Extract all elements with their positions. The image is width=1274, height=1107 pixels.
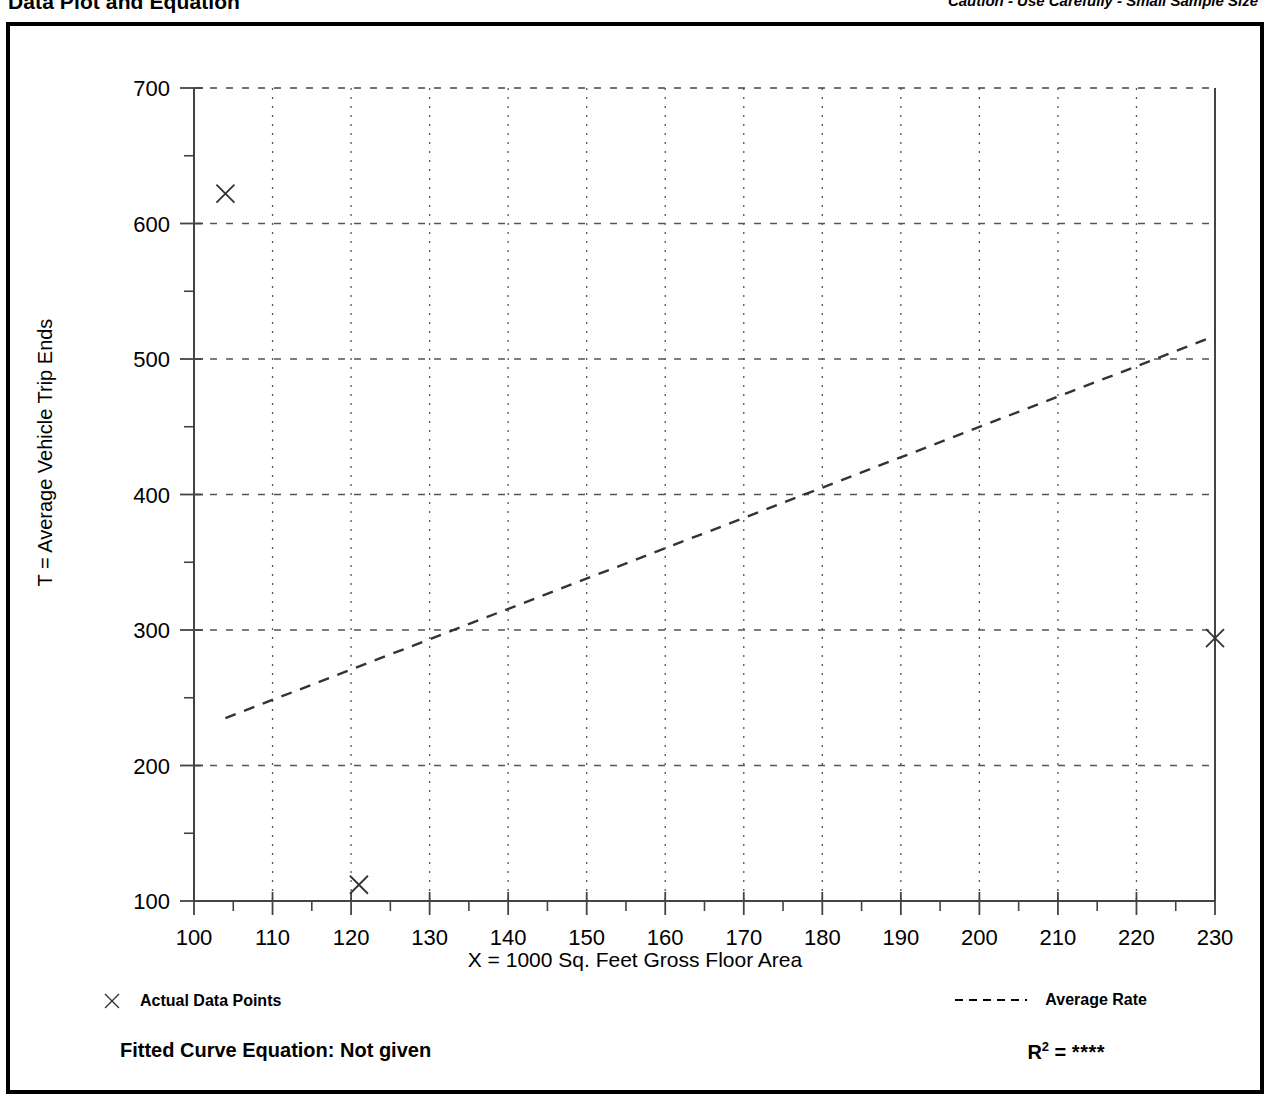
page-header: Data Plot and Equation Caution - Use Car… xyxy=(0,0,1274,18)
fitted-curve-equation: Fitted Curve Equation: Not given xyxy=(120,1039,431,1062)
scatter-plot-svg: 1002003004005006007001001101201301401501… xyxy=(10,26,1260,946)
x-tick-label: 190 xyxy=(882,925,919,946)
y-tick-label: 300 xyxy=(133,618,170,643)
y-tick-label: 500 xyxy=(133,347,170,372)
x-tick-label: 180 xyxy=(804,925,841,946)
data-point-marker xyxy=(216,185,234,203)
r-squared-value: R2 = **** xyxy=(1027,1039,1105,1064)
dashed-line-icon xyxy=(953,994,1029,1006)
legend-label-actual-data-points: Actual Data Points xyxy=(140,992,281,1010)
data-series xyxy=(216,185,1224,894)
axis-ticks xyxy=(180,88,1215,915)
x-tick-label: 220 xyxy=(1118,925,1155,946)
page-title: Data Plot and Equation xyxy=(8,0,240,14)
y-tick-label: 100 xyxy=(133,889,170,914)
caution-note: Caution - Use Carefully - Small Sample S… xyxy=(948,0,1258,9)
x-tick-label: 140 xyxy=(490,925,527,946)
x-tick-label: 230 xyxy=(1197,925,1234,946)
chart-legend: Actual Data Points Average Rate xyxy=(10,991,1260,1027)
y-tick-label: 600 xyxy=(133,212,170,237)
r2-symbol: R xyxy=(1027,1041,1041,1063)
y-tick-label: 200 xyxy=(133,754,170,779)
x-axis-title: X = 1000 Sq. Feet Gross Floor Area xyxy=(10,948,1260,972)
legend-item-average-rate: Average Rate xyxy=(953,991,1147,1009)
x-marker-icon xyxy=(102,991,122,1011)
r2-exponent: 2 xyxy=(1042,1039,1049,1054)
r2-equals: = xyxy=(1049,1041,1072,1063)
legend-item-actual-data-points: Actual Data Points xyxy=(102,991,281,1011)
x-tick-label: 130 xyxy=(411,925,448,946)
r2-stars: **** xyxy=(1072,1041,1105,1063)
x-tick-label: 200 xyxy=(961,925,998,946)
x-tick-label: 100 xyxy=(176,925,213,946)
chart-panel: T = Average Vehicle Trip Ends X = 1000 S… xyxy=(6,22,1264,1094)
axis-tick-labels: 1002003004005006007001001101201301401501… xyxy=(133,76,1233,946)
average-rate-line xyxy=(225,336,1215,718)
x-tick-label: 160 xyxy=(647,925,684,946)
legend-label-average-rate: Average Rate xyxy=(1045,991,1147,1009)
y-tick-label: 700 xyxy=(133,76,170,101)
plot-area: T = Average Vehicle Trip Ends X = 1000 S… xyxy=(10,26,1260,1090)
x-tick-label: 170 xyxy=(725,925,762,946)
grid-lines xyxy=(194,88,1215,901)
chart-footer: Fitted Curve Equation: Not given R2 = **… xyxy=(10,1039,1260,1079)
x-tick-label: 150 xyxy=(568,925,605,946)
x-tick-label: 110 xyxy=(255,925,290,946)
x-tick-label: 210 xyxy=(1040,925,1077,946)
data-point-marker xyxy=(350,876,368,894)
y-tick-label: 400 xyxy=(133,483,170,508)
x-tick-label: 120 xyxy=(333,925,370,946)
